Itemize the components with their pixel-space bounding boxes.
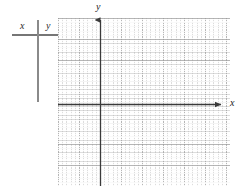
x-axis-label: x <box>230 97 234 108</box>
figure-canvas: x y y x <box>0 0 240 194</box>
y-axis-label: y <box>96 1 100 12</box>
axes-overlay <box>0 0 240 194</box>
